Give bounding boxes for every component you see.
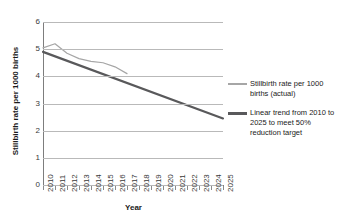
x-tick-mark-2010 xyxy=(43,186,44,190)
x-tick-mark-2022 xyxy=(187,186,188,190)
x-tick-label-2022: 2022 xyxy=(191,174,199,192)
x-tick-label-2014: 2014 xyxy=(95,174,103,192)
chart-legend: Stillbirth rate per 1000 births (actual)… xyxy=(228,79,343,147)
legend-label: Linear trend from 2010 to 2025 to meet 5… xyxy=(250,108,334,137)
y-axis-tick-labels: 6543210 xyxy=(9,22,40,186)
y-tick-label-3: 3 xyxy=(14,100,40,108)
x-tick-mark-2014 xyxy=(91,186,92,190)
gridline-y-4 xyxy=(43,76,223,77)
x-tick-mark-2011 xyxy=(55,186,56,190)
x-tick-label-2024: 2024 xyxy=(215,174,223,192)
x-tick-label-2011: 2011 xyxy=(59,175,67,192)
legend-label: Stillbirth rate per 1000 births (actual) xyxy=(250,79,323,98)
x-tick-mark-2020 xyxy=(163,186,164,190)
x-tick-mark-2019 xyxy=(151,186,152,190)
plot-area xyxy=(43,22,223,185)
x-tick-mark-2012 xyxy=(67,186,68,190)
y-tick-label-5: 5 xyxy=(14,45,40,53)
gridline-y-3 xyxy=(43,104,223,105)
x-tick-label-2020: 2020 xyxy=(167,174,175,192)
y-tick-label-0: 0 xyxy=(14,181,40,189)
series-line-linear-trend xyxy=(43,52,223,119)
x-tick-mark-2015 xyxy=(103,186,104,190)
y-tick-label-6: 6 xyxy=(14,18,40,26)
legend-entry-actual: Stillbirth rate per 1000 births (actual) xyxy=(228,79,343,99)
y-tick-label-1: 1 xyxy=(14,154,40,162)
x-tick-label-2013: 2013 xyxy=(83,174,91,192)
gridline-y-5 xyxy=(43,49,223,50)
y-tick-label-2: 2 xyxy=(14,127,40,135)
x-tick-mark-2016 xyxy=(115,186,116,190)
x-tick-mark-2018 xyxy=(139,186,140,190)
x-tick-label-2010: 2010 xyxy=(47,174,55,192)
x-tick-label-2018: 2018 xyxy=(143,174,151,192)
x-tick-label-2021: 2021 xyxy=(179,174,187,192)
x-tick-label-2019: 2019 xyxy=(155,174,163,192)
x-tick-label-2023: 2023 xyxy=(203,174,211,192)
gridline-y-2 xyxy=(43,131,223,132)
x-tick-label-2012: 2012 xyxy=(71,174,79,192)
y-tick-label-4: 4 xyxy=(14,72,40,80)
legend-swatch-actual xyxy=(228,83,247,85)
x-tick-mark-2013 xyxy=(79,186,80,190)
stillbirth-rate-line-chart: Stillbirth rate per 1000 births 6543210 … xyxy=(0,0,345,222)
x-tick-mark-2025 xyxy=(223,186,224,190)
x-tick-mark-2017 xyxy=(127,186,128,190)
x-tick-label-2025: 2025 xyxy=(227,174,235,192)
x-tick-label-2016: 2016 xyxy=(119,174,127,192)
x-tick-mark-2023 xyxy=(199,186,200,190)
gridline-y-6 xyxy=(43,22,223,23)
x-axis-title: Year xyxy=(43,203,224,212)
x-tick-label-2017: 2017 xyxy=(131,174,139,192)
x-tick-mark-2024 xyxy=(211,186,212,190)
x-tick-mark-2021 xyxy=(175,186,176,190)
legend-swatch-linear-trend xyxy=(228,112,247,115)
gridline-y-1 xyxy=(43,158,223,159)
x-tick-label-2015: 2015 xyxy=(107,174,115,192)
legend-entry-linear-trend: Linear trend from 2010 to 2025 to meet 5… xyxy=(228,108,343,138)
